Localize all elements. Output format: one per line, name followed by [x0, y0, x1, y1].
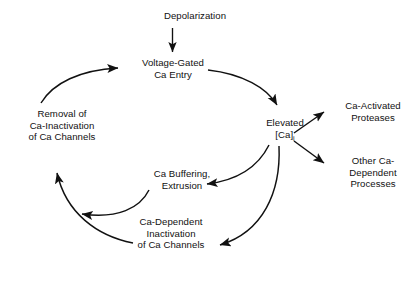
node-other-ca-dependent-line-1: Other Ca- [330, 155, 416, 167]
node-voltage-gated: Voltage-Gated Ca Entry [126, 57, 220, 80]
arrow-elevated-to-ca-dependent-inactivation [220, 146, 279, 245]
node-ca-activated-line-1: Ca-Activated [330, 100, 416, 112]
node-ca-activated-line-2: Proteases [330, 112, 416, 124]
node-ca-dependent-inactivation: Ca-Dependent Inactivation of Ca Channels [114, 216, 228, 251]
node-depolarization: Depolarization [148, 10, 242, 22]
node-other-ca-dependent-processes: Other Ca- Dependent Processes [330, 155, 416, 190]
diagram-canvas: Depolarization Voltage-Gated Ca Entry El… [0, 0, 418, 285]
arrow-ca-buffering-to-removal [82, 190, 149, 215]
node-other-ca-dependent-line-2: Dependent [330, 167, 416, 179]
node-ca-dependent-inactivation-line-1: Ca-Dependent [114, 216, 228, 228]
node-ca-dependent-inactivation-line-2: Inactivation [114, 228, 228, 240]
node-elevated-line-2: [Ca]i [253, 129, 317, 141]
node-removal-line-3: of Ca Channels [6, 131, 118, 143]
node-ca-buffering-extrusion: Ca Buffering, Extrusion [136, 168, 228, 191]
node-voltage-gated-line-2: Ca Entry [126, 69, 220, 81]
node-ca-activated-proteases: Ca-Activated Proteases [330, 100, 416, 123]
node-other-ca-dependent-line-3: Processes [330, 178, 416, 190]
node-removal-of-ca-inactivation: Removal of Ca-Inactivation of Ca Channel… [6, 108, 118, 143]
node-depolarization-line-1: Depolarization [148, 10, 242, 22]
arrow-removal-to-voltage-gated [41, 68, 118, 103]
arrow-elevated-to-other-ca-dependent [294, 141, 324, 163]
node-ca-buffering-line-1: Ca Buffering, [136, 168, 228, 180]
node-elevated-calcium: Elevated [Ca]i [253, 117, 317, 140]
node-elevated-subscript: i [293, 135, 295, 142]
node-voltage-gated-line-1: Voltage-Gated [126, 57, 220, 69]
node-ca-buffering-line-2: Extrusion [136, 180, 228, 192]
node-removal-line-1: Removal of [6, 108, 118, 120]
node-removal-line-2: Ca-Inactivation [6, 120, 118, 132]
node-elevated-line-1: Elevated [253, 117, 317, 129]
node-elevated-bracket-text: [Ca] [275, 129, 293, 140]
node-ca-dependent-inactivation-line-3: of Ca Channels [114, 239, 228, 251]
